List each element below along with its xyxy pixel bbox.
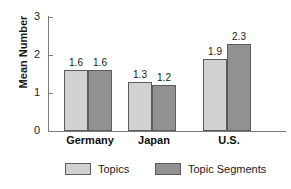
y-tick-label-3: 3 <box>34 11 40 22</box>
bar-us-topic-segments <box>227 44 251 131</box>
legend-item-topic-segments: Topic Segments <box>155 160 266 178</box>
category-label-us: U.S. <box>199 134 259 146</box>
bar-germany-topic-segments <box>88 70 112 131</box>
plot-area: 1.6 1.6 1.3 1.2 1.9 2.3 <box>48 17 285 131</box>
bar-value-japan-topic-segments: 1.2 <box>148 73 180 83</box>
y-tick-label-1: 1 <box>34 87 40 98</box>
bar-value-us-topic-segments: 2.3 <box>223 32 255 42</box>
bar-japan-topic-segments <box>152 85 176 131</box>
legend-label-topic-segments: Topic Segments <box>188 163 266 175</box>
bar-japan-topics <box>128 82 152 131</box>
legend-item-topics: Topics <box>65 160 129 178</box>
y-tick-label-0: 0 <box>34 125 40 136</box>
bar-germany-topics <box>64 70 88 131</box>
y-tick-mark-0 <box>48 131 53 132</box>
x-axis-line <box>48 131 286 132</box>
category-label-japan: Japan <box>124 134 184 146</box>
bar-value-germany-topic-segments: 1.6 <box>84 58 116 68</box>
category-label-germany: Germany <box>60 134 120 146</box>
legend: Topics Topic Segments <box>0 160 291 182</box>
legend-label-topics: Topics <box>98 163 129 175</box>
y-tick-label-2: 2 <box>34 49 40 60</box>
y-axis-label: Mean Number <box>17 7 29 97</box>
bar-chart: Mean Number 3 2 1 0 1.6 1.6 1.3 1.2 1.9 … <box>0 0 291 189</box>
bar-us-topics <box>203 59 227 131</box>
legend-swatch-topics-icon <box>65 163 91 175</box>
legend-swatch-topic-segments-icon <box>155 163 181 175</box>
